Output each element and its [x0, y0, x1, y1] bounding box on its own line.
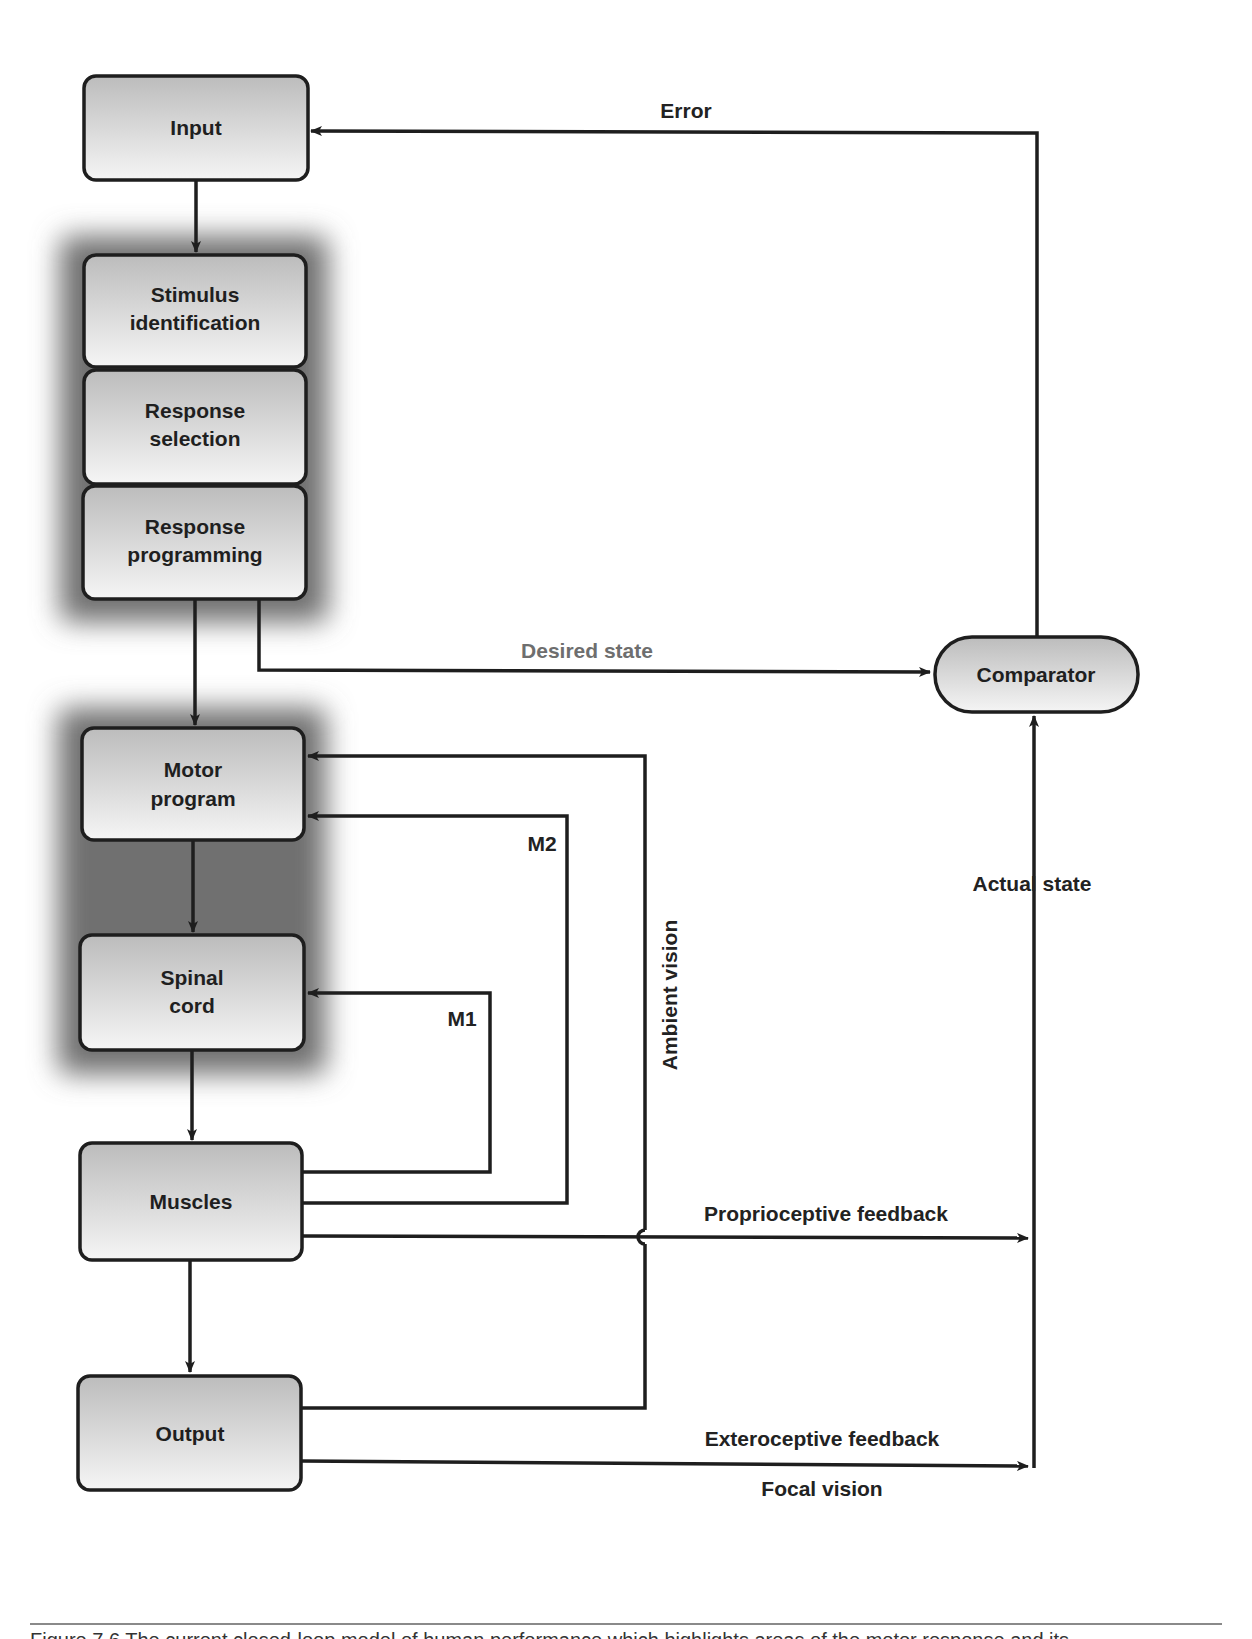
- label-m1: M1: [447, 1007, 476, 1030]
- label-focal-vision: Focal vision: [761, 1477, 882, 1500]
- label-stimulus-line2: identification: [130, 311, 261, 334]
- label-programming-line1: Response: [145, 515, 245, 538]
- label-motor-line1: Motor: [164, 758, 222, 781]
- arrow-exteroceptive-feedback: [301, 1461, 1028, 1466]
- label-exteroceptive-feedback: Exteroceptive feedback: [705, 1427, 940, 1450]
- caption-divider: [30, 1623, 1222, 1625]
- label-stimulus-line1: Stimulus: [151, 283, 240, 306]
- arrow-proprioceptive-feedback: [302, 1236, 1028, 1238]
- label-actual-state: Actual state: [972, 872, 1091, 895]
- label-desired-state: Desired state: [521, 639, 653, 662]
- arrow-m2-loop: [302, 816, 567, 1203]
- label-error: Error: [660, 99, 711, 122]
- diagram-canvas: Input Stimulus identification Response s…: [0, 0, 1252, 1620]
- label-selection-line1: Response: [145, 399, 245, 422]
- label-comparator: Comparator: [976, 663, 1095, 686]
- label-spinal-line2: cord: [169, 994, 215, 1017]
- label-proprioceptive-feedback: Proprioceptive feedback: [704, 1202, 948, 1225]
- node-motor-program: [82, 728, 304, 840]
- label-output: Output: [156, 1422, 225, 1445]
- line-ambient-vision-lower: [301, 1244, 645, 1408]
- label-ambient-vision: Ambient vision: [658, 920, 681, 1071]
- label-m2: M2: [527, 832, 556, 855]
- label-selection-line2: selection: [149, 427, 240, 450]
- arrow-error: [311, 131, 1037, 637]
- node-spinal-cord: [80, 935, 304, 1050]
- label-input: Input: [170, 116, 221, 139]
- figure-caption: Figure 7.6 The current closed-loop model…: [30, 1630, 1222, 1639]
- label-programming-line2: programming: [127, 543, 262, 566]
- label-muscles: Muscles: [150, 1190, 233, 1213]
- label-motor-line2: program: [150, 787, 235, 810]
- label-spinal-line1: Spinal: [160, 966, 223, 989]
